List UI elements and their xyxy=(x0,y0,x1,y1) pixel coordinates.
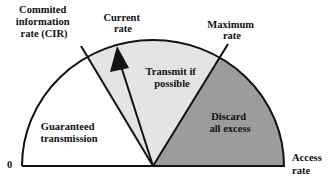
access-rate-label: Access rate xyxy=(292,152,324,176)
maximum-rate-label: Maximum rate xyxy=(207,19,256,41)
guaranteed-label: Guaranteed transmission xyxy=(40,121,97,144)
cir-label: Commited information rate (CIR) xyxy=(16,4,72,40)
discard-label: Discard all excess xyxy=(209,111,250,134)
zero-label: 0 xyxy=(7,159,12,170)
current-rate-label: Current rate xyxy=(103,12,142,34)
rate-gauge-diagram: Commited information rate (CIR) Current … xyxy=(0,0,332,180)
